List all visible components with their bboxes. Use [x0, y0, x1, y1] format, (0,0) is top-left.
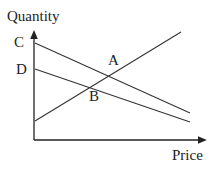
diagram-canvas	[0, 0, 219, 171]
point-label-D: D	[16, 62, 27, 77]
point-label-C: C	[14, 35, 24, 50]
line-from-D	[35, 69, 190, 122]
point-label-A: A	[108, 53, 119, 68]
point-label-B: B	[89, 89, 99, 104]
y-axis-label: Quantity	[7, 9, 60, 24]
x-axis-label: Price	[172, 148, 203, 163]
